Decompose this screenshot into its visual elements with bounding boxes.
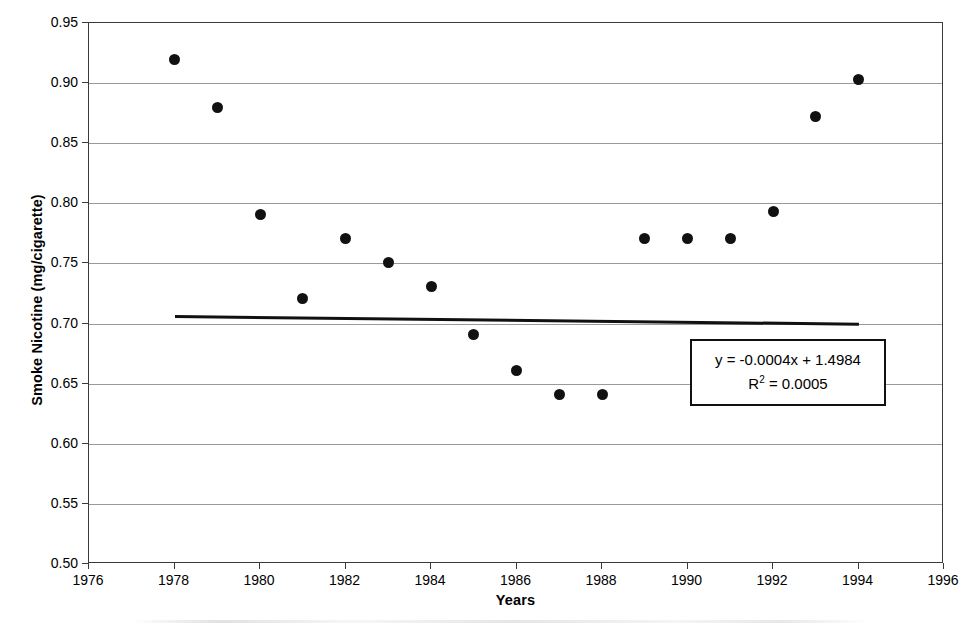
- x-axis-tick: [345, 563, 346, 569]
- y-axis-tick-label: 0.80: [6, 195, 78, 209]
- data-point-marker: [639, 233, 650, 244]
- x-axis-tick: [88, 563, 89, 569]
- y-axis-tick-label: 0.50: [6, 556, 78, 570]
- x-axis-tick: [601, 563, 602, 569]
- data-point-marker: [554, 389, 565, 400]
- y-axis-tick-label: 0.55: [6, 496, 78, 510]
- x-axis-tick: [772, 563, 773, 569]
- data-point-marker: [383, 257, 394, 268]
- x-axis-tick: [430, 563, 431, 569]
- data-point-marker: [597, 389, 608, 400]
- x-axis-title: Years: [88, 592, 943, 608]
- gridline: [89, 263, 942, 264]
- y-axis-tick-label: 0.60: [6, 436, 78, 450]
- trendline-equation-box: y = -0.0004x + 1.4984 R2 = 0.0005: [690, 339, 886, 406]
- x-axis-tick-label: 1984: [390, 572, 470, 588]
- gridline: [89, 143, 942, 144]
- data-point-marker: [255, 209, 266, 220]
- data-point-marker: [169, 54, 180, 65]
- data-point-marker: [725, 233, 736, 244]
- gridline: [89, 203, 942, 204]
- x-axis-tick: [259, 563, 260, 569]
- data-point-marker: [212, 102, 223, 113]
- x-axis-tick-label: 1978: [134, 572, 214, 588]
- x-axis-tick: [516, 563, 517, 569]
- x-axis-tick-label: 1996: [903, 572, 967, 588]
- data-point-marker: [426, 281, 437, 292]
- y-axis-tick-label: 0.70: [6, 316, 78, 330]
- x-axis-tick-label: 1988: [561, 572, 641, 588]
- data-point-marker: [682, 233, 693, 244]
- r-squared-symbol: R: [748, 375, 759, 392]
- x-axis-tick-label: 1982: [305, 572, 385, 588]
- data-point-marker: [340, 233, 351, 244]
- data-point-marker: [810, 111, 821, 122]
- x-axis-tick-label: 1986: [476, 572, 556, 588]
- y-axis-tick-label: 0.85: [6, 135, 78, 149]
- data-point-marker: [297, 293, 308, 304]
- x-axis-tick: [174, 563, 175, 569]
- gridline: [89, 504, 942, 505]
- r-squared-value: = 0.0005: [769, 375, 828, 392]
- x-axis-tick-label: 1976: [48, 572, 128, 588]
- x-axis-tick-label: 1990: [647, 572, 727, 588]
- data-point-marker: [511, 365, 522, 376]
- data-point-marker: [768, 206, 779, 217]
- plot-area: [88, 22, 943, 563]
- x-axis-tick-label: 1994: [818, 572, 898, 588]
- data-point-marker: [853, 74, 864, 85]
- x-axis-tick: [943, 563, 944, 569]
- y-axis-tick-label: 0.95: [6, 15, 78, 29]
- x-axis-tick-label: 1992: [732, 572, 812, 588]
- x-axis-tick: [858, 563, 859, 569]
- trendline-equation-text: y = -0.0004x + 1.4984: [700, 348, 876, 372]
- x-axis-tick: [687, 563, 688, 569]
- data-point-marker: [468, 329, 479, 340]
- y-axis-tick-label: 0.90: [6, 75, 78, 89]
- y-axis-tick-label: 0.65: [6, 376, 78, 390]
- x-axis-tick-label: 1980: [219, 572, 299, 588]
- scatter-chart-figure: Smoke Nicotine (mg/cigarette) 0.500.550.…: [0, 0, 967, 634]
- y-axis-tick-label: 0.75: [6, 255, 78, 269]
- gridline: [89, 83, 942, 84]
- r-squared-text: R2 = 0.0005: [700, 372, 876, 396]
- scan-artifact: [130, 620, 870, 623]
- gridline: [89, 444, 942, 445]
- r-squared-exponent: 2: [759, 374, 765, 385]
